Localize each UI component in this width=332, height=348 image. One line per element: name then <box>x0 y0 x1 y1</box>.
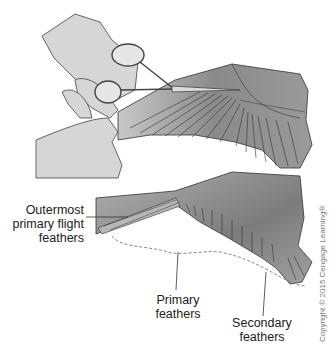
bottom-wing <box>96 172 312 284</box>
label-secondary-feathers: Secondary feathers <box>222 316 302 344</box>
label-line: feathers <box>148 307 208 321</box>
label-line: Primary <box>148 293 208 307</box>
copyright-notice: Copyright © 2015 Cengage Learning® <box>318 206 327 342</box>
bottom-left-hand <box>36 118 122 178</box>
label-line: primary flight <box>2 217 84 231</box>
label-line: feathers <box>2 231 84 245</box>
label-line: feathers <box>222 330 302 344</box>
label-primary-feathers: Primary feathers <box>148 293 208 321</box>
label-line: Secondary <box>222 316 302 330</box>
label-line: Outermost <box>2 203 84 217</box>
label-outermost-primary-flight-feathers: Outermost primary flight feathers <box>2 203 84 245</box>
top-wing <box>118 64 312 168</box>
